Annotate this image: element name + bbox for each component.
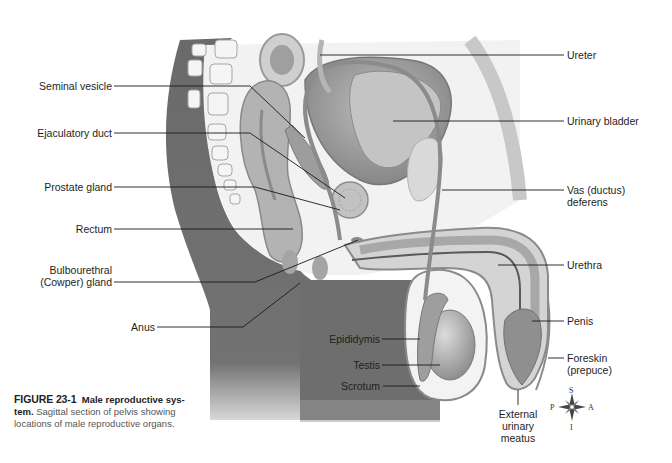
compass-inferior: I [570,423,573,432]
label-ureter: Ureter [567,49,596,61]
compass-anterior: A [588,403,594,412]
label-testis: Testis [300,359,380,371]
label-vas-deferens: Vas (ductus) deferens [567,184,625,208]
figure-number: FIGURE 23-1 [14,393,77,405]
label-foreskin: Foreskin (prepuce) [567,352,612,376]
label-foreskin-line1: Foreskin [567,352,612,364]
figure-title-2: tem. [14,406,34,417]
label-scrotum: Scrotum [300,380,380,392]
label-bulbourethral-line2: (Cowper) gland [10,276,112,288]
label-meatus-line2: urinary [488,420,548,432]
label-bulbourethral-gland: Bulbourethral (Cowper) gland [10,264,112,288]
label-prostate-gland: Prostate gland [10,181,112,193]
label-meatus-line1: External [488,408,548,420]
figure-title-1: Male reproductive sys- [82,394,185,405]
figure-caption: FIGURE 23-1 Male reproductive sys- tem. … [14,393,194,430]
figure-description-1: Sagittal section of pelvis showing [34,406,176,417]
label-external-urinary-meatus: External urinary meatus [488,408,548,444]
compass-posterior: P [550,403,554,412]
label-foreskin-line2: (prepuce) [567,364,612,376]
label-penis: Penis [567,315,593,327]
figure-description-2: locations of male reproductive organs. [14,418,175,429]
label-seminal-vesicle: Seminal vesicle [10,80,112,92]
label-bulbourethral-line1: Bulbourethral [10,264,112,276]
label-urinary-bladder: Urinary bladder [567,115,639,127]
label-ejaculatory-duct: Ejaculatory duct [10,127,112,139]
label-vas-deferens-line1: Vas (ductus) [567,184,625,196]
label-meatus-line3: meatus [488,432,548,444]
label-anus: Anus [100,321,155,333]
label-urethra: Urethra [567,259,602,271]
compass-superior: S [569,386,573,395]
label-rectum: Rectum [10,223,112,235]
prostate-organ [332,182,368,218]
label-vas-deferens-line2: deferens [567,196,625,208]
compass-rose [558,393,586,421]
label-epididymis: Epididymis [300,333,380,345]
